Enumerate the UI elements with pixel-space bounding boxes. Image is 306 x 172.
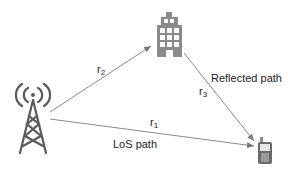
label-reflected-path: Reflected path	[211, 73, 282, 84]
label-r2: r2	[97, 64, 105, 77]
label-los-path: LoS path	[113, 139, 157, 150]
r1-sub: 1	[154, 121, 158, 130]
label-r3: r3	[199, 86, 207, 99]
path-r2-line	[50, 46, 151, 112]
r3-sub: 3	[203, 90, 207, 99]
mobile-phone-icon	[258, 137, 272, 164]
path-r3-line	[184, 53, 254, 141]
label-r1: r1	[150, 117, 158, 130]
building-icon	[157, 12, 182, 57]
cell-tower-icon	[16, 84, 50, 153]
r2-sub: 2	[101, 68, 105, 77]
